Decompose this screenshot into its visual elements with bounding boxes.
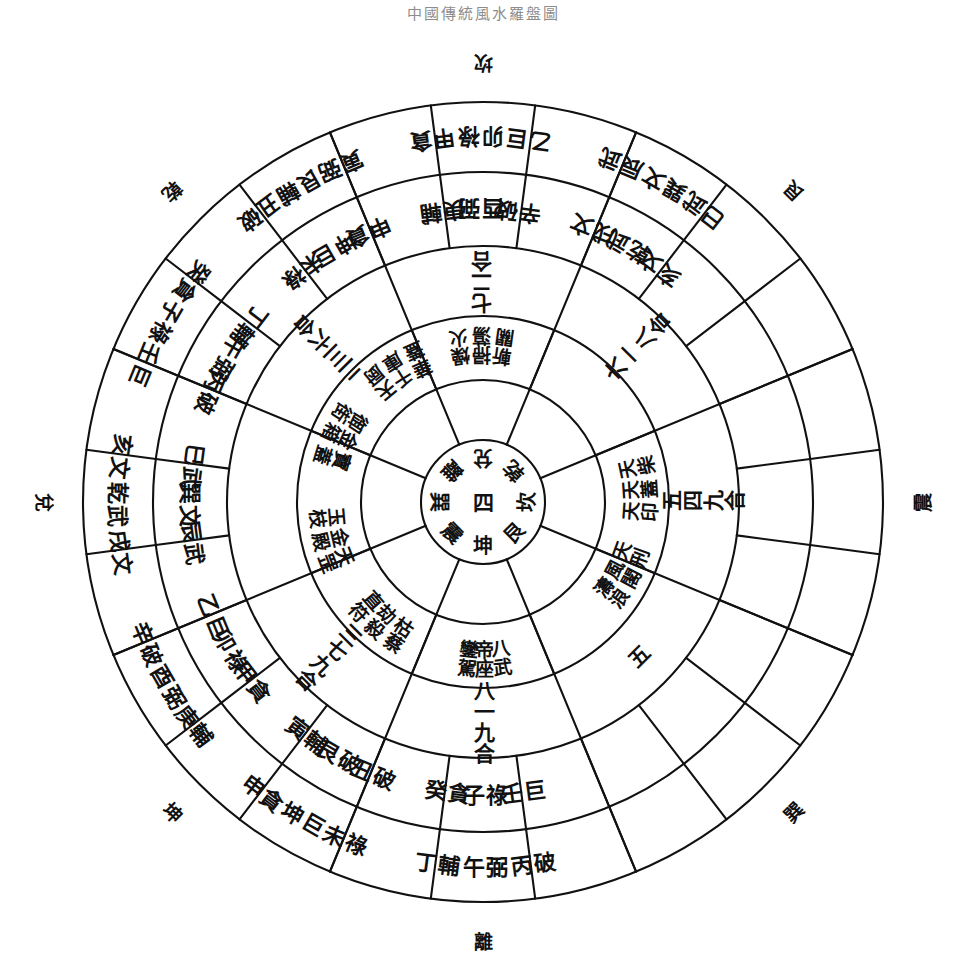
mountain-divider-0-12	[431, 829, 440, 898]
mountain-divider-0-3	[745, 258, 801, 301]
mountain-divider-0-19	[113, 349, 178, 376]
mountain-divider-0-16	[113, 628, 178, 655]
star-divider-4	[412, 615, 436, 674]
mountain-divider-0-8	[745, 703, 801, 746]
mountain-divider-0-0	[526, 105, 535, 174]
mountain-divider-1-10	[581, 739, 609, 807]
mountain-divider-1-14	[282, 705, 327, 764]
ring-circle-0	[421, 440, 545, 564]
ring-circle-1	[361, 380, 605, 624]
mountain-divider-0-21	[239, 185, 282, 241]
star-divider-7	[412, 330, 436, 389]
mountain-divider-1-9	[639, 705, 684, 764]
ring-circle-2	[297, 316, 669, 688]
mountain-divider-0-20	[166, 258, 222, 301]
mountain-divider-0-18	[86, 450, 155, 459]
core-divider-1	[540, 455, 595, 478]
mountain-divider-1-8	[686, 658, 745, 703]
mountain-divider-0-1	[609, 132, 636, 197]
star-divider-0	[530, 330, 554, 389]
mountain-divider-0-22	[330, 132, 357, 197]
mountain-divider-1-20	[221, 301, 280, 346]
mountain-divider-0-7	[788, 628, 853, 655]
mountain-divider-0-11	[526, 829, 535, 898]
mountain-divider-1-19	[178, 376, 246, 404]
mountain-divider-0-5	[810, 450, 879, 459]
ring-circle-4	[153, 172, 813, 832]
mountain-divider-1-3	[686, 301, 745, 346]
mountain-divider-0-15	[166, 703, 222, 746]
mountain-divider-1-15	[221, 658, 280, 703]
core-divider-3	[507, 559, 530, 614]
mountain-divider-1-22	[357, 197, 385, 265]
core-divider-6	[370, 455, 425, 478]
compass-rings-svg	[0, 0, 966, 972]
core-divider-5	[370, 526, 425, 549]
ring-circle-3	[227, 246, 739, 758]
mountain-divider-1-16	[178, 600, 246, 628]
star-divider-2	[596, 549, 655, 573]
mountain-divider-0-23	[431, 105, 440, 174]
core-divider-2	[540, 526, 595, 549]
mountain-divider-1-21	[282, 240, 327, 299]
mountain-divider-1-11	[516, 756, 526, 829]
mountain-divider-1-1	[581, 197, 609, 265]
mountain-divider-1-18	[156, 459, 229, 469]
star-divider-3	[530, 615, 554, 674]
mountain-divider-0-6	[810, 545, 879, 554]
mountain-divider-0-13	[330, 807, 357, 872]
mountain-divider-1-4	[720, 376, 788, 404]
mountain-divider-0-4	[788, 349, 853, 376]
mountain-divider-1-5	[737, 459, 810, 469]
compass-diagram: 中國傳統風水羅盤圖 離坤兌乾坎艮震巽丙破午弼丁輔未祿坤巨申貪庚輔酉弼辛破戌文乾武…	[0, 0, 966, 972]
core-divider-7	[436, 389, 459, 444]
star-divider-6	[311, 431, 370, 455]
mountain-divider-1-17	[156, 535, 229, 545]
mountain-divider-0-2	[684, 185, 727, 241]
mountain-divider-0-10	[609, 807, 636, 872]
ring-circle-5	[83, 102, 883, 902]
star-divider-5	[311, 549, 370, 573]
mountain-divider-0-17	[86, 545, 155, 554]
mountain-divider-1-0	[516, 175, 526, 248]
ring-circles	[83, 102, 883, 902]
ring-spokes	[86, 105, 879, 898]
mountain-divider-1-7	[720, 600, 788, 628]
mountain-divider-1-13	[357, 739, 385, 807]
mountain-divider-1-6	[737, 535, 810, 545]
core-divider-0	[507, 389, 530, 444]
mountain-divider-0-14	[239, 764, 282, 820]
star-divider-1	[596, 431, 655, 455]
mountain-divider-0-9	[684, 764, 727, 820]
mountain-divider-1-23	[440, 175, 450, 248]
mountain-divider-1-12	[440, 756, 450, 829]
mountain-divider-1-2	[639, 240, 684, 299]
core-divider-4	[436, 559, 459, 614]
